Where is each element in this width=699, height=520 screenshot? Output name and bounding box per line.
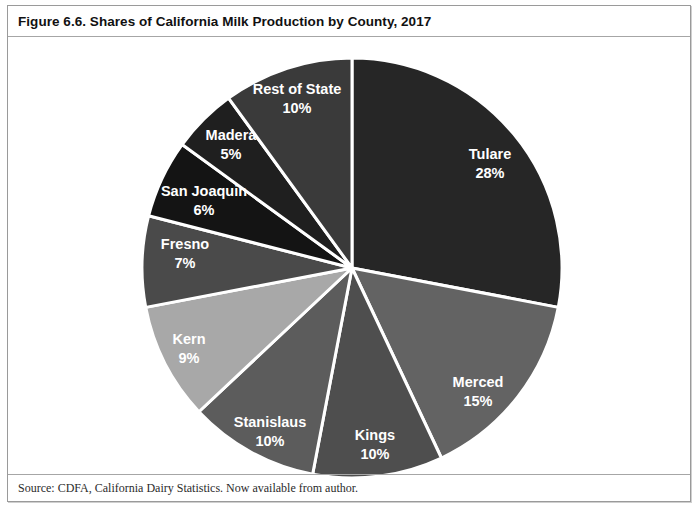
pie-slice-label: Kern <box>172 331 205 347</box>
pie-slice <box>352 58 562 307</box>
pie-slice-label: Kings <box>355 427 395 443</box>
pie-slice-value: 7% <box>175 255 196 271</box>
pie-slice-value: 28% <box>475 165 504 181</box>
pie-slice-value: 9% <box>179 350 200 366</box>
pie-slice-label: Madera <box>206 127 258 143</box>
pie-slice-value: 6% <box>194 202 215 218</box>
pie-slice-label: Stanislaus <box>234 414 307 430</box>
pie-slices <box>142 58 562 478</box>
pie-chart: Tulare28%Merced15%Kings10%Stanislaus10%K… <box>0 0 699 520</box>
pie-chart-svg: Tulare28%Merced15%Kings10%Stanislaus10%K… <box>0 0 699 520</box>
pie-slice-value: 10% <box>255 433 284 449</box>
pie-slice-value: 15% <box>463 393 492 409</box>
pie-slice-label: Fresno <box>161 236 209 252</box>
figure-page: Figure 6.6. Shares of California Milk Pr… <box>0 0 699 520</box>
pie-slice-label: Rest of State <box>253 81 342 97</box>
pie-slice-label: Merced <box>453 374 504 390</box>
source-note: Source: CDFA, California Dairy Statistic… <box>18 481 358 496</box>
source-divider <box>8 474 690 475</box>
pie-slice-label: San Joaquin <box>161 183 247 199</box>
pie-slice-label: Tulare <box>469 146 511 162</box>
pie-slice-value: 10% <box>282 100 311 116</box>
pie-slice-value: 5% <box>221 146 242 162</box>
pie-slice-value: 10% <box>360 446 389 462</box>
